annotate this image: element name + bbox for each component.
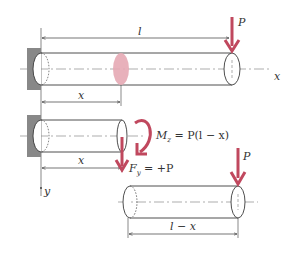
y-axis-label: y: [43, 185, 51, 198]
free-beam: P l − x: [118, 148, 258, 238]
y-axis-tip: [40, 187, 42, 189]
x-axis-label: x: [274, 70, 281, 83]
shear-label: Fy = +P: [128, 162, 174, 177]
free-load-label: P: [242, 150, 251, 163]
section-dim-label: x: [78, 89, 85, 102]
cut-beam: x Mz = P(l − x) Fy = +P: [20, 115, 229, 177]
beam-diagram: y l x x P: [0, 0, 293, 255]
load-label: P: [237, 16, 246, 29]
free-left-face: [123, 186, 130, 218]
length-label: l: [138, 25, 142, 38]
moment-label: Mz = P(l − x): [155, 129, 229, 144]
section-cut: [113, 53, 129, 85]
right-end-face: [224, 53, 240, 85]
cut-dim-label: x: [78, 154, 85, 167]
free-dim-label: l − x: [170, 220, 197, 233]
top-beam: l x x P: [20, 16, 281, 106]
